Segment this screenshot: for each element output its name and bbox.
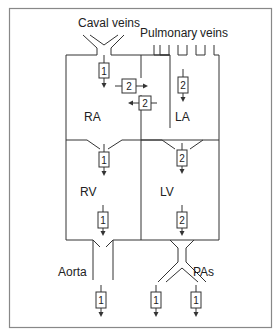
svg-text:1: 1 xyxy=(101,66,107,77)
label-pulmonary: Pulmonary xyxy=(140,26,197,40)
svg-text:1: 1 xyxy=(101,155,107,166)
svg-text:1: 1 xyxy=(193,295,199,306)
label-rv: RV xyxy=(80,185,96,199)
svg-text:1: 1 xyxy=(100,215,106,226)
label-caval-veins: Caval veins xyxy=(78,16,140,30)
svg-text:1: 1 xyxy=(98,295,104,306)
svg-text:2: 2 xyxy=(179,215,185,226)
label-aorta: Aorta xyxy=(58,265,87,279)
svg-text:1: 1 xyxy=(153,295,159,306)
svg-text:2: 2 xyxy=(126,81,132,92)
label-pas: PAs xyxy=(193,265,214,279)
label-veins: veins xyxy=(200,26,228,40)
label-ra: RA xyxy=(84,110,101,124)
svg-text:2: 2 xyxy=(142,98,148,109)
svg-text:2: 2 xyxy=(180,80,186,91)
label-lv: LV xyxy=(160,185,174,199)
svg-text:2: 2 xyxy=(179,153,185,164)
label-la: LA xyxy=(175,110,190,124)
circulation-diagram: Caval veins Pulmonary veins 1 2 2 xyxy=(0,0,275,335)
